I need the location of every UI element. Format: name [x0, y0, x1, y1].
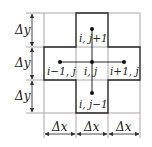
node-top	[90, 27, 94, 31]
label-top: i, j+1	[79, 32, 108, 44]
dy-label-top: Δy	[14, 23, 31, 37]
node-center	[90, 60, 94, 64]
dx-label-middle: Δx	[83, 120, 100, 134]
node-bottom	[90, 91, 94, 95]
stencil-diagram: i, j+1 i, j i−1, j i+1, j i, j−1 Δy Δy Δ…	[0, 0, 152, 147]
label-left: i−1, j	[47, 65, 77, 77]
dy-label-middle: Δy	[14, 56, 31, 70]
node-right	[122, 60, 126, 64]
dx-label-right: Δx	[115, 120, 132, 134]
dx-label-left: Δx	[51, 120, 68, 134]
label-right: i+1, j	[110, 65, 140, 77]
dy-label-bottom: Δy	[14, 89, 31, 103]
label-center: i, j	[84, 65, 98, 77]
node-left	[58, 60, 62, 64]
label-bottom: i, j−1	[79, 98, 108, 110]
